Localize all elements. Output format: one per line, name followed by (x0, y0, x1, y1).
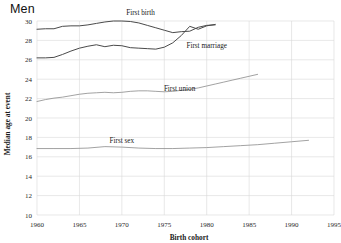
chart-figure: Men 1012141618202224262830 1960196519701… (0, 0, 341, 243)
y-tick-label: 24 (25, 76, 33, 84)
y-tick-label: 16 (25, 153, 33, 161)
x-tick-label: 1970 (115, 221, 130, 229)
page-title: Men (10, 2, 35, 16)
y-axis-title: Median age at event (3, 92, 12, 155)
y-tick-label: 26 (25, 56, 33, 64)
x-tick-label: 1985 (242, 221, 257, 229)
series-label-first-sex: First sex (110, 137, 135, 145)
y-tick-label: 28 (25, 37, 33, 45)
y-tick-label: 18 (25, 134, 33, 142)
series-line-first-union (37, 74, 258, 101)
y-axis-tick-labels: 1012141618202224262830 (25, 18, 33, 220)
y-tick-label: 10 (25, 212, 33, 220)
series-label-first-birth: First birth (126, 9, 155, 17)
y-tick-label: 14 (25, 173, 33, 181)
series-line-first-marriage (37, 24, 215, 57)
x-tick-label: 1980 (200, 221, 215, 229)
y-tick-label: 30 (25, 18, 33, 26)
series-label-first-marriage: First marriage (186, 42, 227, 50)
y-tick-label: 12 (25, 192, 33, 200)
x-axis-tick-labels: 19601965197019751980198519901995 (30, 221, 341, 229)
x-tick-label: 1995 (327, 221, 341, 229)
x-tick-label: 1990 (285, 221, 300, 229)
x-tick-label: 1975 (157, 221, 172, 229)
line-chart-plot: 1012141618202224262830 19601965197019751… (0, 0, 341, 243)
series-annotations: First birthFirst marriageFirst unionFirs… (110, 9, 227, 145)
series-line-first-birth (37, 21, 215, 33)
series-line-first-sex (37, 140, 309, 148)
x-tick-label: 1965 (72, 221, 87, 229)
series-label-first-union: First union (164, 85, 196, 93)
y-tick-label: 22 (25, 95, 33, 103)
x-axis-title: Birth cohort (170, 233, 209, 242)
y-tick-label: 20 (25, 115, 33, 123)
x-tick-label: 1960 (30, 221, 45, 229)
